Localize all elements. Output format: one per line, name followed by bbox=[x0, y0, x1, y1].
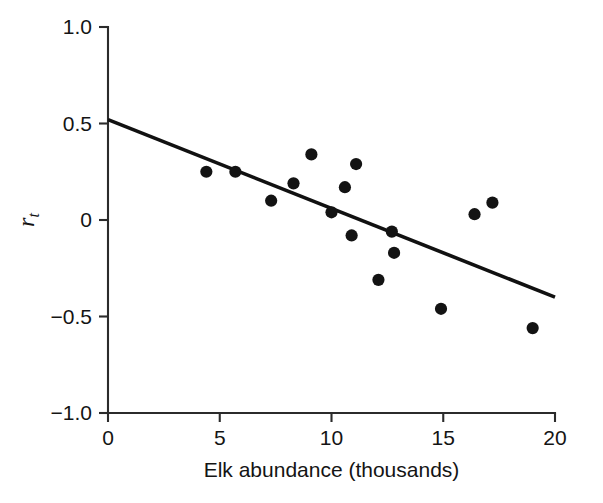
y-axis-title-subscript: t bbox=[25, 213, 42, 218]
data-point: 10.9, -0.08 bbox=[346, 229, 358, 241]
x-tick-label-2: 10 bbox=[320, 426, 343, 449]
x-axis-title: Elk abundance (thousands) bbox=[204, 458, 460, 481]
y-tick-labels: 1.00.50−0.5−1.0 bbox=[51, 15, 92, 424]
axes bbox=[108, 27, 555, 413]
data-point: 14.9, -0.46 bbox=[435, 303, 447, 315]
data-point: 12.7, -0.06 bbox=[386, 225, 398, 237]
data-point: 4.4, 0.25 bbox=[200, 166, 212, 178]
y-tick-label-2: 0 bbox=[80, 208, 92, 231]
data-point: 16.4, 0.03 bbox=[468, 208, 480, 220]
data-point: 7.3, 0.1 bbox=[265, 195, 277, 207]
data-point: 17.2, 0.09 bbox=[486, 197, 498, 209]
x-tick-labels: 05101520 bbox=[102, 426, 567, 449]
y-axis-title: rt bbox=[13, 213, 42, 227]
data-point: 11.1, 0.29 bbox=[350, 158, 362, 170]
y-tick-label-4: −1.0 bbox=[51, 401, 92, 424]
x-tick-label-3: 15 bbox=[432, 426, 455, 449]
data-point: 9.1, 0.34 bbox=[305, 148, 317, 160]
x-tick-label-4: 20 bbox=[543, 426, 566, 449]
y-tick-label-3: −0.5 bbox=[51, 305, 92, 328]
x-axis-title-text: Elk abundance (thousands) bbox=[204, 458, 460, 481]
y-axis-title-text: rt bbox=[13, 213, 42, 227]
data-point: 19, -0.56 bbox=[527, 322, 539, 334]
data-point: 10.6, 0.17 bbox=[339, 181, 351, 193]
tick-marks bbox=[99, 27, 555, 422]
y-tick-label-0: 1.0 bbox=[63, 15, 92, 38]
x-tick-label-0: 0 bbox=[102, 426, 114, 449]
scatter-plot: 05101520 1.00.50−0.5−1.0 4.4, 0.255.7, 0… bbox=[0, 0, 603, 503]
y-tick-label-1: 0.5 bbox=[63, 112, 92, 135]
data-point: 10, 0.04 bbox=[325, 206, 337, 218]
data-point: 8.3, 0.19 bbox=[287, 177, 299, 189]
figure-container: 05101520 1.00.50−0.5−1.0 4.4, 0.255.7, 0… bbox=[0, 0, 603, 503]
data-point: 12.8, -0.17 bbox=[388, 247, 400, 259]
data-point: 12.1, -0.31 bbox=[372, 274, 384, 286]
x-tick-label-1: 5 bbox=[214, 426, 226, 449]
data-point: 5.7, 0.25 bbox=[229, 166, 241, 178]
axis-spine bbox=[108, 27, 555, 413]
